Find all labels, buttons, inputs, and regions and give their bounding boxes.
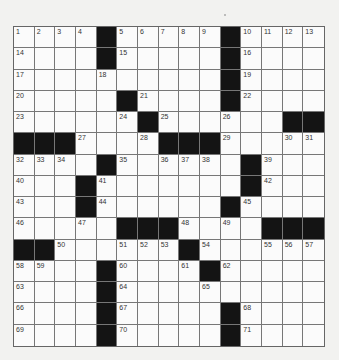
grid-cell[interactable] — [55, 282, 76, 303]
grid-cell[interactable] — [200, 48, 221, 69]
grid-cell[interactable]: 2 — [35, 27, 56, 48]
grid-cell[interactable]: 1 — [14, 27, 35, 48]
grid-cell[interactable] — [283, 70, 304, 91]
grid-cell[interactable] — [138, 176, 159, 197]
grid-cell[interactable] — [55, 176, 76, 197]
grid-cell[interactable] — [241, 282, 262, 303]
grid-cell[interactable] — [159, 91, 180, 112]
grid-cell[interactable] — [97, 91, 118, 112]
grid-cell[interactable]: 67 — [117, 303, 138, 324]
grid-cell[interactable]: 65 — [200, 282, 221, 303]
grid-cell[interactable]: 35 — [117, 155, 138, 176]
grid-cell[interactable] — [262, 91, 283, 112]
grid-cell[interactable]: 40 — [14, 176, 35, 197]
grid-cell[interactable] — [179, 197, 200, 218]
grid-cell[interactable] — [283, 325, 304, 346]
grid-cell[interactable] — [200, 303, 221, 324]
grid-cell[interactable]: 24 — [117, 112, 138, 133]
grid-cell[interactable] — [35, 91, 56, 112]
grid-cell[interactable]: 71 — [241, 325, 262, 346]
grid-cell[interactable]: 43 — [14, 197, 35, 218]
grid-cell[interactable]: 55 — [262, 240, 283, 261]
grid-cell[interactable] — [283, 282, 304, 303]
grid-cell[interactable]: 45 — [241, 197, 262, 218]
grid-cell[interactable]: 22 — [241, 91, 262, 112]
grid-cell[interactable]: 13 — [303, 27, 324, 48]
grid-cell[interactable] — [97, 240, 118, 261]
grid-cell[interactable]: 25 — [159, 112, 180, 133]
grid-cell[interactable] — [262, 112, 283, 133]
grid-cell[interactable]: 12 — [283, 27, 304, 48]
grid-cell[interactable] — [76, 155, 97, 176]
grid-cell[interactable]: 23 — [14, 112, 35, 133]
grid-cell[interactable]: 64 — [117, 282, 138, 303]
grid-cell[interactable] — [303, 325, 324, 346]
grid-cell[interactable]: 16 — [241, 48, 262, 69]
grid-cell[interactable] — [55, 303, 76, 324]
grid-cell[interactable] — [97, 133, 118, 154]
grid-cell[interactable]: 36 — [159, 155, 180, 176]
grid-cell[interactable]: 26 — [221, 112, 242, 133]
grid-cell[interactable]: 56 — [283, 240, 304, 261]
grid-cell[interactable] — [97, 112, 118, 133]
grid-cell[interactable] — [138, 70, 159, 91]
grid-cell[interactable]: 49 — [221, 218, 242, 239]
grid-cell[interactable] — [55, 197, 76, 218]
grid-cell[interactable] — [117, 133, 138, 154]
grid-cell[interactable]: 37 — [179, 155, 200, 176]
grid-cell[interactable] — [138, 303, 159, 324]
grid-cell[interactable] — [35, 197, 56, 218]
grid-cell[interactable] — [35, 112, 56, 133]
grid-cell[interactable] — [179, 325, 200, 346]
grid-cell[interactable] — [262, 325, 283, 346]
grid-cell[interactable] — [241, 112, 262, 133]
grid-cell[interactable] — [283, 176, 304, 197]
grid-cell[interactable]: 70 — [117, 325, 138, 346]
grid-cell[interactable] — [138, 282, 159, 303]
grid-cell[interactable]: 62 — [221, 261, 242, 282]
grid-cell[interactable]: 54 — [200, 240, 221, 261]
grid-cell[interactable] — [76, 48, 97, 69]
grid-cell[interactable] — [179, 48, 200, 69]
grid-cell[interactable] — [303, 91, 324, 112]
grid-cell[interactable]: 31 — [303, 133, 324, 154]
grid-cell[interactable] — [138, 48, 159, 69]
grid-cell[interactable]: 28 — [138, 133, 159, 154]
grid-cell[interactable] — [159, 282, 180, 303]
grid-cell[interactable]: 66 — [14, 303, 35, 324]
grid-cell[interactable] — [76, 325, 97, 346]
grid-cell[interactable] — [221, 240, 242, 261]
grid-cell[interactable] — [200, 197, 221, 218]
grid-cell[interactable]: 33 — [35, 155, 56, 176]
grid-cell[interactable] — [303, 303, 324, 324]
grid-cell[interactable] — [138, 261, 159, 282]
grid-cell[interactable]: 5 — [117, 27, 138, 48]
grid-cell[interactable] — [303, 282, 324, 303]
grid-cell[interactable] — [35, 303, 56, 324]
grid-cell[interactable] — [241, 261, 262, 282]
grid-cell[interactable] — [179, 176, 200, 197]
grid-cell[interactable] — [200, 176, 221, 197]
grid-cell[interactable]: 20 — [14, 91, 35, 112]
grid-cell[interactable] — [55, 91, 76, 112]
grid-cell[interactable] — [55, 70, 76, 91]
grid-cell[interactable]: 39 — [262, 155, 283, 176]
grid-cell[interactable] — [262, 70, 283, 91]
grid-cell[interactable]: 7 — [159, 27, 180, 48]
grid-cell[interactable] — [221, 176, 242, 197]
grid-cell[interactable]: 34 — [55, 155, 76, 176]
grid-cell[interactable] — [55, 325, 76, 346]
grid-cell[interactable] — [241, 218, 262, 239]
grid-cell[interactable]: 44 — [97, 197, 118, 218]
grid-cell[interactable] — [76, 282, 97, 303]
grid-cell[interactable] — [159, 197, 180, 218]
grid-cell[interactable] — [35, 70, 56, 91]
grid-cell[interactable]: 41 — [97, 176, 118, 197]
grid-cell[interactable] — [200, 112, 221, 133]
grid-cell[interactable]: 58 — [14, 261, 35, 282]
grid-cell[interactable]: 69 — [14, 325, 35, 346]
grid-cell[interactable] — [159, 325, 180, 346]
grid-cell[interactable] — [283, 303, 304, 324]
grid-cell[interactable] — [283, 197, 304, 218]
grid-cell[interactable]: 4 — [76, 27, 97, 48]
